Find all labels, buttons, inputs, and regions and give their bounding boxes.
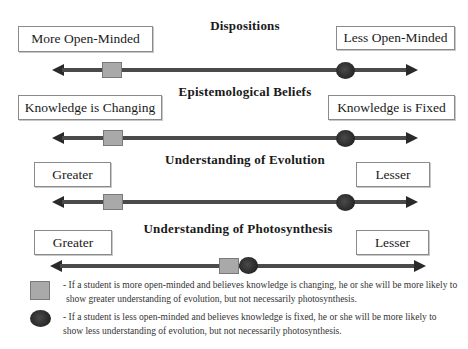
left-label-more-open-minded: More Open-Minded xyxy=(18,26,153,52)
dark-circle-marker xyxy=(239,257,258,274)
left-label-greater: Greater xyxy=(34,230,112,255)
right-label-lesser: Lesser xyxy=(356,230,429,255)
right-label-knowledge-fixed: Knowledge is Fixed xyxy=(328,95,455,120)
dark-circle-marker xyxy=(336,194,355,211)
arrow-right-icon xyxy=(406,196,418,208)
gray-square-marker xyxy=(103,130,123,146)
legend-gray-square-icon xyxy=(30,281,50,300)
gray-square-marker xyxy=(102,62,122,78)
left-label-knowledge-changing: Knowledge is Changing xyxy=(18,95,162,120)
legend-square-line-1: - If a student is more open-minded and b… xyxy=(63,278,457,292)
legend-dark-circle-icon xyxy=(30,310,51,327)
dark-circle-marker xyxy=(336,62,355,79)
row-title-dispositions: Dispositions xyxy=(210,18,280,34)
gray-square-marker xyxy=(219,258,239,274)
left-label-greater: Greater xyxy=(34,162,111,187)
arrow-right-icon xyxy=(414,260,426,272)
legend-circle-line-2: show less understanding of evolution, bu… xyxy=(63,324,342,338)
legend-circle-line-1: - If a student is less open-minded and b… xyxy=(63,310,437,324)
legend-square-line-2: show greater understanding of evolution,… xyxy=(66,292,357,306)
arrow-right-icon xyxy=(406,64,418,76)
row-title-epistemological-beliefs: Epistemological Beliefs xyxy=(179,84,312,100)
gray-square-marker xyxy=(103,194,123,210)
dark-circle-marker xyxy=(336,130,355,147)
arrow-right-icon xyxy=(406,132,418,144)
right-label-lesser: Lesser xyxy=(356,162,430,187)
right-label-less-open-minded: Less Open-Minded xyxy=(336,26,455,50)
row-title-understanding-evolution: Understanding of Evolution xyxy=(165,152,325,168)
row-title-understanding-photosynthesis: Understanding of Photosynthesis xyxy=(144,221,333,237)
